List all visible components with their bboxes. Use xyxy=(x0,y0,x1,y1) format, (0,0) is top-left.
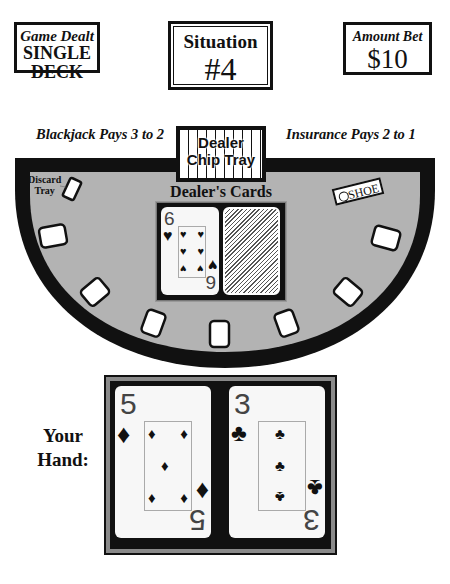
discard-label-line2: Tray xyxy=(28,185,61,196)
heart-icon: ♥ xyxy=(197,229,204,240)
diamond-icon: ♦ xyxy=(180,426,188,441)
player-card-3-clubs: 3 ♣ ♣ ♣ ♣ ♣ 3 xyxy=(229,386,325,538)
dealer-chip-tray: Dealer Chip Tray xyxy=(176,126,266,182)
card-rank: 5 xyxy=(120,389,137,419)
club-icon: ♣ xyxy=(275,490,285,505)
diamond-icon: ♦ xyxy=(196,476,209,502)
card-pip-area: ♦ ♦ ♦ ♦ ♦ xyxy=(144,421,192,511)
dealer-card-hole xyxy=(223,207,280,295)
club-icon: ♣ xyxy=(275,458,285,473)
heart-icon: ♥ xyxy=(180,263,187,274)
card-pip-area: ♣ ♣ ♣ xyxy=(258,421,306,511)
your-hand-line1: Your xyxy=(26,424,100,448)
dealer-card-up: 6 ♥ ♥ ♥ ♥ ♥ ♥ ♥ ♥ 9 xyxy=(161,207,219,295)
blackjack-payout-label: Blackjack Pays 3 to 2 xyxy=(36,126,164,143)
heart-icon: ♥ xyxy=(180,246,187,257)
discard-tray-label: Discard Tray xyxy=(28,174,61,196)
diamond-icon: ♦ xyxy=(148,490,156,505)
discard-label-line1: Discard xyxy=(28,174,61,185)
chip-tray-line2: Chip Tray xyxy=(180,151,262,168)
your-hand-label: Your Hand: xyxy=(26,424,100,472)
player-hand-area: 5 ♦ ♦ ♦ ♦ ♦ ♦ ♦ 5 3 ♣ ♣ ♣ ♣ ♣ 3 xyxy=(106,377,335,553)
card-rank-bottom: 3 xyxy=(303,505,320,535)
betting-spot[interactable] xyxy=(210,321,229,347)
diamond-icon: ♦ xyxy=(117,421,130,447)
heart-icon: ♥ xyxy=(208,257,218,273)
chip-tray-line1: Dealer xyxy=(180,134,262,151)
betting-spot[interactable] xyxy=(38,224,67,248)
heart-icon: ♥ xyxy=(197,246,204,257)
diamond-icon: ♦ xyxy=(161,458,169,473)
card-rank: 6 xyxy=(164,209,175,229)
club-icon: ♣ xyxy=(275,426,285,441)
your-hand-line2: Hand: xyxy=(26,448,100,472)
diamond-icon: ♦ xyxy=(180,490,188,505)
card-rank: 3 xyxy=(234,389,251,419)
card-rank-bottom: 9 xyxy=(205,273,216,293)
heart-icon: ♥ xyxy=(180,229,187,240)
insurance-payout-label: Insurance Pays 2 to 1 xyxy=(286,126,416,143)
diamond-icon: ♦ xyxy=(148,426,156,441)
heart-icon: ♥ xyxy=(163,228,173,244)
card-pip-area: ♥ ♥ ♥ ♥ ♥ ♥ xyxy=(178,226,206,278)
player-card-5-diamonds: 5 ♦ ♦ ♦ ♦ ♦ ♦ ♦ 5 xyxy=(115,386,211,538)
dealer-cards-area: 6 ♥ ♥ ♥ ♥ ♥ ♥ ♥ ♥ 9 xyxy=(156,202,286,301)
heart-icon: ♥ xyxy=(197,263,204,274)
card-rank-bottom: 5 xyxy=(189,505,206,535)
club-icon: ♣ xyxy=(307,476,323,500)
club-icon: ♣ xyxy=(231,421,247,445)
dealer-cards-label: Dealer's Cards xyxy=(150,183,292,201)
